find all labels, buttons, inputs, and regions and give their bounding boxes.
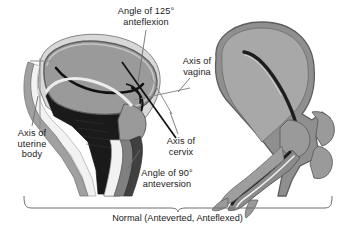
label-angle-anteflexion: Angle of 125° anteflexion: [100, 6, 192, 27]
label-uterine-line1: Axis of: [18, 128, 46, 138]
label-angle-anteversion: Angle of 90° anteversion: [120, 168, 214, 189]
anterior-fornix-flap: [310, 146, 332, 179]
label-uterine-line3: body: [22, 149, 42, 159]
label-anteflexion-line2: anteflexion: [123, 17, 169, 27]
label-vagina-line2: vagina: [183, 67, 211, 77]
label-vagina-line1: Axis of: [183, 56, 211, 66]
label-uterine-line2: uterine: [18, 139, 47, 149]
uterus-anatomy-figure: Angle of 125° anteflexion Axis of vagina…: [0, 0, 355, 229]
anatomy-illustration-svg: [0, 0, 355, 229]
label-anteflexion-line1: Angle of 125°: [118, 6, 175, 16]
figure-caption: Normal (Anteverted, Anteflexed): [0, 213, 355, 223]
normal-range-brace: [24, 196, 332, 212]
isolated-vagina-tip: [212, 198, 228, 211]
label-axis-of-uterine-body: Axis of uterine body: [4, 128, 60, 160]
right-panel: [212, 22, 334, 218]
label-anteversion-line1: Angle of 90°: [141, 168, 192, 178]
leader-vagina: [178, 78, 190, 92]
label-axis-of-cervix: Axis of cervix: [152, 136, 210, 157]
label-anteversion-line2: anteversion: [143, 179, 192, 189]
label-cervix-line2: cervix: [169, 147, 194, 157]
label-axis-of-vagina: Axis of vagina: [166, 56, 228, 77]
label-cervix-line1: Axis of: [167, 136, 195, 146]
